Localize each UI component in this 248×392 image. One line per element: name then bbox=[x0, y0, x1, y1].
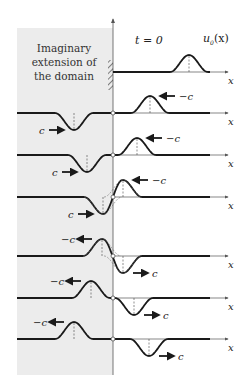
origin-marker bbox=[111, 337, 115, 341]
x-axis-label: x bbox=[228, 116, 234, 127]
region-label-line-1: Imaginary bbox=[37, 42, 91, 54]
region-label-line-3: the domain bbox=[34, 70, 94, 82]
region-label-line-2: extension of bbox=[32, 56, 98, 68]
velocity-label-minus-c: −c bbox=[33, 317, 47, 328]
velocity-label-minus-c: −c bbox=[179, 91, 193, 102]
x-axis-label: x bbox=[228, 259, 234, 270]
velocity-label-c: c bbox=[52, 167, 58, 178]
origin-marker bbox=[111, 195, 115, 199]
velocity-label-minus-c: −c bbox=[152, 175, 166, 186]
x-axis-label: x bbox=[228, 158, 234, 169]
initial-profile-symbol: u bbox=[203, 32, 210, 45]
velocity-label-c: c bbox=[178, 351, 184, 362]
velocity-label-minus-c: −c bbox=[166, 133, 180, 144]
velocity-label-minus-c: −c bbox=[61, 234, 75, 245]
x-axis-label: x bbox=[228, 75, 234, 86]
wave-profile bbox=[113, 55, 210, 72]
row-t0: x bbox=[113, 55, 234, 86]
x-axis-label: x bbox=[228, 301, 234, 312]
x-axis-label: x bbox=[228, 342, 234, 353]
time-label: t = 0 bbox=[135, 34, 163, 47]
velocity-label-c: c bbox=[68, 209, 74, 220]
initial-profile-arg: (x) bbox=[214, 32, 229, 45]
velocity-label-c: c bbox=[152, 268, 158, 279]
x-axis-label: x bbox=[228, 200, 234, 211]
velocity-label-c: c bbox=[163, 310, 169, 321]
origin-marker bbox=[111, 111, 115, 115]
origin-marker bbox=[111, 296, 115, 300]
fixed-wall-hatch bbox=[108, 60, 113, 90]
velocity-label-c: c bbox=[39, 125, 45, 136]
velocity-label-minus-c: −c bbox=[50, 276, 64, 287]
svg-text:u0(x): u0(x) bbox=[203, 32, 229, 46]
origin-marker bbox=[111, 254, 115, 258]
origin-marker bbox=[111, 153, 115, 157]
wave-reflection-diagram: Imaginary extension of the domain t = 0 … bbox=[0, 0, 248, 392]
initial-profile-label: u0(x) bbox=[203, 32, 229, 46]
